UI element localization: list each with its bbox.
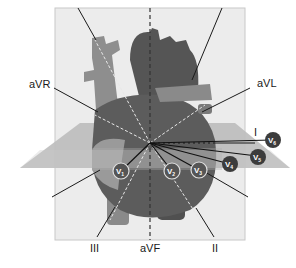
- label-aVF: aVF: [140, 243, 160, 254]
- lead-V6: V6: [265, 132, 281, 148]
- lead-V1: V1: [113, 163, 129, 179]
- label-aVR: aVR: [29, 79, 50, 90]
- lead-V4: V4: [222, 156, 238, 172]
- label-I: I: [254, 127, 257, 138]
- label-III: III: [90, 243, 99, 254]
- lead-V5: V5: [250, 149, 266, 165]
- ecg-lead-diagram: V1 V2 V3 V4 V5 V6: [0, 0, 296, 268]
- label-II: II: [212, 243, 218, 254]
- label-aVL: aVL: [257, 78, 277, 89]
- lead-V3: V3: [191, 162, 207, 178]
- lead-V2: V2: [164, 163, 180, 179]
